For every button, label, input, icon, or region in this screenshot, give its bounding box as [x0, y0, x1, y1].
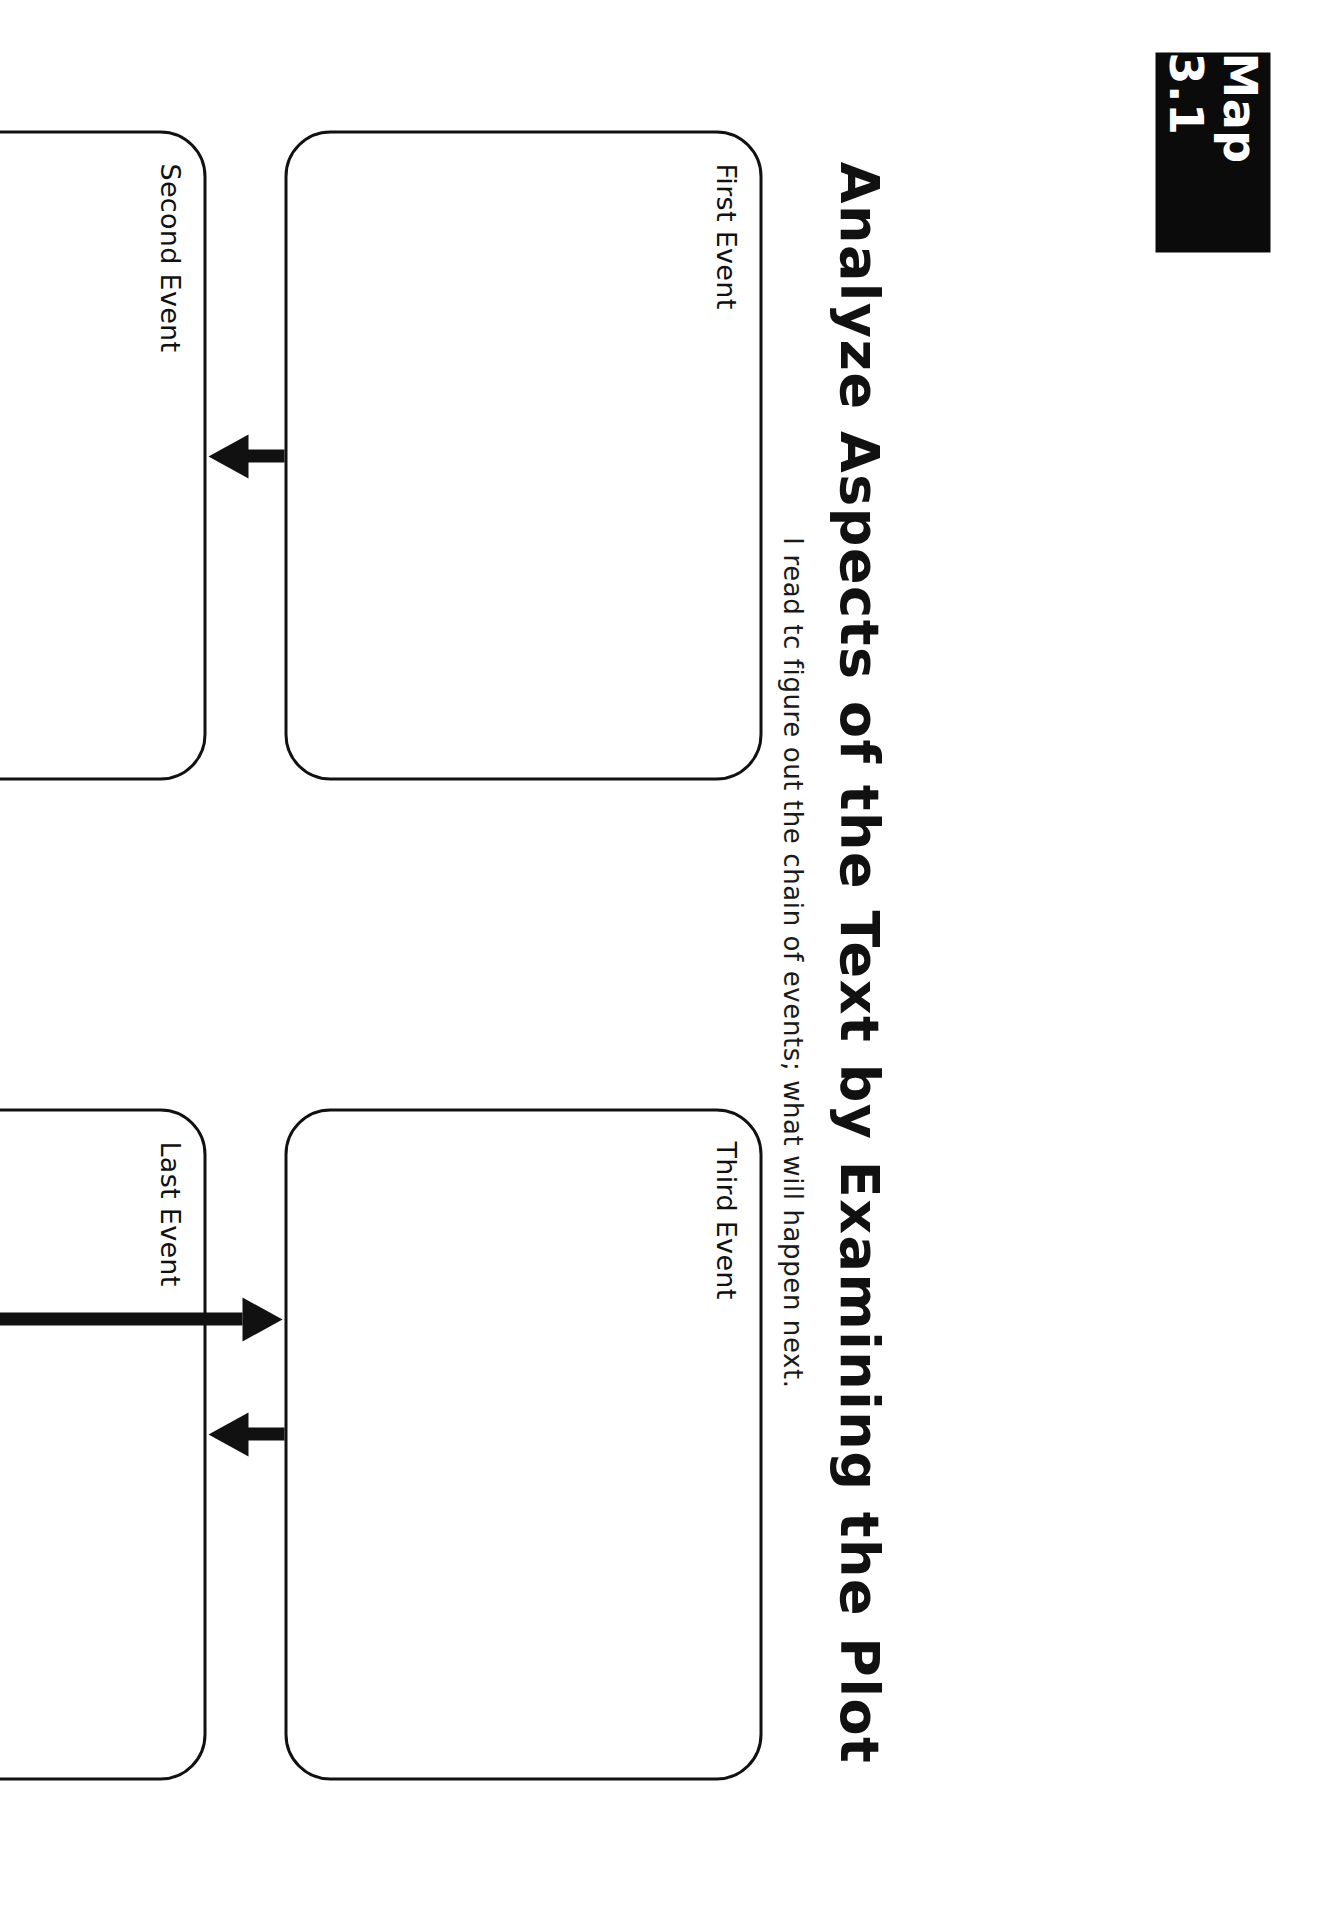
arrowhead-up-icon [242, 1297, 282, 1341]
worksheet-page: Map 3.1 Analyze Aspects of the Text by E… [0, 0, 1318, 1925]
event-box-third[interactable]: Third Event [284, 1108, 762, 1780]
event-box-second[interactable]: Second Event [0, 130, 206, 780]
page-subtitle: I read tc figure out the chain of events… [777, 0, 807, 1925]
connector-line-vertical [0, 1312, 242, 1325]
map-number-badge: Map 3.1 [1155, 52, 1270, 252]
connector-line [244, 449, 284, 462]
map-number-label: Map 3.1 [1159, 52, 1267, 252]
event-box-label-last: Last Event [154, 1141, 185, 1286]
event-box-last[interactable]: Last Event [0, 1108, 206, 1780]
connector-line [244, 1427, 284, 1440]
arrowhead-down-icon [208, 434, 248, 478]
page-title: Analyze Aspects of the Text by Examining… [829, 0, 888, 1925]
event-box-label-third: Third Event [710, 1141, 741, 1299]
event-box-label-first: First Event [710, 163, 741, 309]
header-text-block: Analyze Aspects of the Text by Examining… [777, 0, 888, 1925]
worksheet-sheet: Map 3.1 Analyze Aspects of the Text by E… [0, 0, 1318, 1925]
event-box-first[interactable]: First Event [284, 130, 762, 780]
event-box-label-second: Second Event [154, 163, 185, 352]
arrowhead-down-icon [208, 1412, 248, 1456]
